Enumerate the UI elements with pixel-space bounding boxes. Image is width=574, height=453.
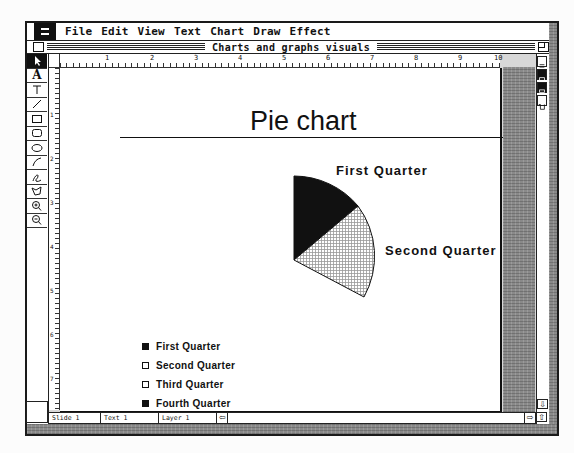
legend-swatch-icon: [142, 381, 149, 388]
slide-view-icon[interactable]: [537, 69, 547, 80]
menu-chart[interactable]: Chart: [210, 25, 244, 38]
pie-chart[interactable]: [210, 123, 410, 303]
scroll-right-arrow-icon[interactable]: ⇨: [524, 413, 536, 423]
zoom-in-tool-icon[interactable]: [27, 199, 47, 214]
ruler-mark: 5: [50, 287, 54, 294]
list-view-icon[interactable]: [537, 56, 547, 67]
menu-bar: File Edit View Text Chart Draw Effect: [27, 23, 557, 41]
menu-file[interactable]: File: [65, 25, 92, 38]
title-stripes: [377, 43, 535, 51]
ruler-mark: 6: [50, 331, 54, 338]
legend-label: First Quarter: [156, 341, 220, 352]
legend-swatch-icon: [142, 400, 149, 407]
polygon-tool-icon[interactable]: [27, 185, 47, 200]
ruler-mark: 8: [414, 54, 418, 62]
title-stripes: [47, 43, 205, 51]
legend-item: First Quarter: [142, 337, 235, 356]
ruler-mark: 1: [50, 111, 54, 118]
slide-canvas[interactable]: Pie chart First Quarter Second Quarter F…: [60, 68, 502, 413]
desktop-pattern: [27, 424, 557, 434]
zoom-box-icon[interactable]: [538, 42, 549, 52]
rectangle-tool-icon[interactable]: [27, 112, 47, 127]
legend-label: Fourth Quarter: [156, 398, 231, 409]
ruler-mark: 4: [238, 54, 242, 62]
window-frame-edge: [549, 23, 557, 434]
slide-indicator[interactable]: Slide 1: [49, 413, 101, 423]
vertical-scroll-track[interactable]: [503, 67, 535, 412]
arc-tool-icon[interactable]: [27, 156, 47, 171]
application-window: File Edit View Text Chart Draw Effect Ch…: [25, 21, 559, 436]
view-mode-strip: ⇩: [536, 54, 549, 434]
sorter-view-icon[interactable]: [537, 82, 547, 93]
close-box-icon[interactable]: [33, 42, 44, 52]
legend-item: Second Quarter: [142, 356, 235, 375]
chart-legend[interactable]: First Quarter Second Quarter Third Quart…: [142, 337, 235, 413]
ruler-mark: 3: [50, 199, 54, 206]
ruler-mark: 4: [50, 243, 54, 250]
notes-view-icon[interactable]: [537, 95, 547, 106]
ruler-mark: 10: [494, 54, 502, 62]
scroll-down-arrow-icon[interactable]: ⇩: [537, 399, 548, 409]
size-box-icon[interactable]: ⇧: [536, 412, 547, 422]
ruler-mark: 3: [194, 54, 198, 62]
freehand-tool-icon[interactable]: [27, 170, 47, 185]
ruler-mark: 5: [282, 54, 286, 62]
ruler-mark: 7: [370, 54, 374, 62]
pointer-tool-icon[interactable]: [27, 54, 47, 69]
toolbox: A: [27, 54, 49, 434]
menu-effect[interactable]: Effect: [290, 25, 331, 38]
window-title-bar[interactable]: Charts and graphs visuals: [27, 41, 557, 54]
line-tool-icon[interactable]: [27, 98, 47, 113]
menu-edit[interactable]: Edit: [101, 25, 128, 38]
vertical-ruler[interactable]: 1 2 3 4 5 6 7: [49, 68, 60, 410]
rounded-rectangle-tool-icon[interactable]: [27, 127, 47, 142]
legend-swatch-icon: [142, 362, 149, 369]
menu-view[interactable]: View: [138, 25, 165, 38]
scroll-left-arrow-icon[interactable]: ⇦: [217, 413, 228, 423]
ruler-mark: 7: [50, 375, 54, 382]
window-title: Charts and graphs visuals: [208, 42, 374, 53]
ruler-corner: [49, 54, 60, 68]
ruler-mark: 1: [105, 54, 109, 62]
menu-draw[interactable]: Draw: [253, 25, 280, 38]
legend-swatch-icon: [142, 343, 149, 350]
zoom-out-tool-icon[interactable]: [27, 214, 47, 229]
page-corner-box: [26, 401, 48, 423]
legend-item: Third Quarter: [142, 375, 235, 394]
text-indicator[interactable]: Text 1: [101, 413, 159, 423]
ruler-mark: 9: [458, 54, 462, 62]
pie-label-second-quarter[interactable]: Second Quarter: [385, 243, 497, 258]
status-bar: Slide 1 Text 1 Layer 1 ⇦ ⇨: [49, 412, 536, 424]
menu-text[interactable]: Text: [174, 25, 201, 38]
ruler-mark: 2: [150, 54, 154, 62]
ruler-mark: 2: [50, 155, 54, 162]
apple-menu-icon[interactable]: [34, 23, 56, 40]
text-tool-icon[interactable]: A: [27, 69, 47, 84]
legend-item: Fourth Quarter: [142, 394, 235, 413]
legend-label: Second Quarter: [156, 360, 235, 371]
pie-label-first-quarter[interactable]: First Quarter: [336, 163, 428, 178]
horizontal-ruler[interactable]: 1 2 3 4 5 6 7 8 9 10: [60, 54, 500, 68]
oval-tool-icon[interactable]: [27, 141, 47, 156]
ruler-mark: 6: [326, 54, 330, 62]
layer-indicator[interactable]: Layer 1: [159, 413, 217, 423]
legend-label: Third Quarter: [156, 379, 224, 390]
perpendicular-line-tool-icon[interactable]: [27, 83, 47, 98]
